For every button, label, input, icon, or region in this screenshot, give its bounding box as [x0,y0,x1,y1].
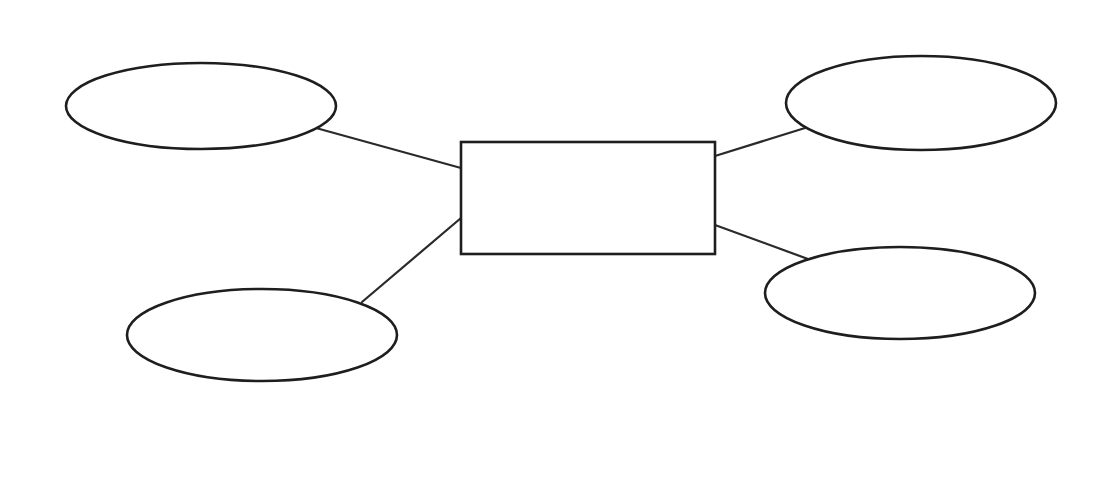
ellipse-shape[interactable] [786,56,1056,150]
ellipse-node-top-left[interactable] [66,63,336,149]
center-rectangle[interactable] [461,142,715,254]
diagram-canvas [0,0,1120,500]
connector-top-left-to-center [316,128,461,168]
center-entity [461,142,715,254]
ellipse-node-top-right[interactable] [786,56,1056,150]
ellipse-shape[interactable] [127,289,397,381]
connector-bottom-right-to-center [715,225,808,259]
connector-bottom-left-to-center [362,218,461,302]
ellipse-node-bottom-right[interactable] [765,247,1035,339]
ellipse-shape[interactable] [765,247,1035,339]
ellipse-shape[interactable] [66,63,336,149]
connector-top-right-to-center [715,128,805,156]
ellipse-node-bottom-left[interactable] [127,289,397,381]
diagram-svg [0,0,1120,500]
